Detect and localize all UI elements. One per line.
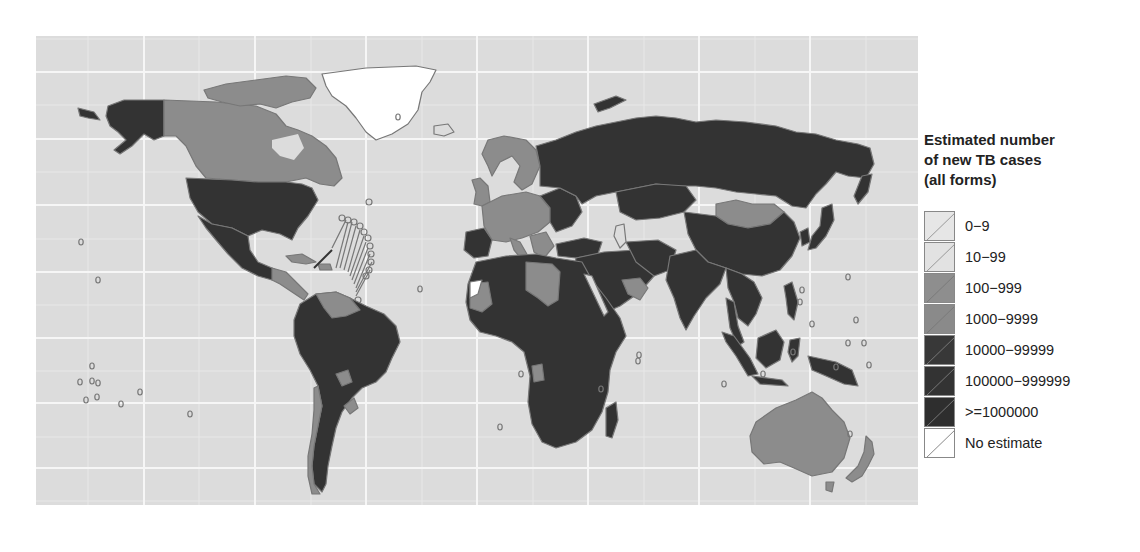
region-usa: [186, 178, 318, 240]
map-panel: [36, 36, 918, 505]
region-aleutians: [78, 108, 100, 120]
region-greenland: [322, 66, 436, 140]
legend-swatch: [924, 211, 955, 241]
region-java: [752, 376, 788, 386]
legend-label: 10000−99999: [965, 342, 1054, 358]
region-madagascar: [606, 402, 618, 438]
legend-swatch: [924, 242, 955, 272]
legend-label: 0−9: [965, 218, 990, 234]
legend-label: >=1000000: [965, 404, 1038, 420]
legend-swatch: [924, 304, 955, 334]
legend-swatch: [924, 273, 955, 303]
region-uk: [472, 178, 490, 206]
region-japan: [808, 204, 834, 250]
region-hispaniola: [318, 264, 332, 270]
region-iceland: [434, 124, 454, 136]
legend-label: 100000−999999: [965, 373, 1070, 389]
legend-label: 100−999: [965, 280, 1022, 296]
legend-label: 10−99: [965, 249, 1006, 265]
caribbean-island-markers: [332, 199, 374, 303]
legend-swatch: [924, 428, 955, 458]
region-russia: [536, 116, 874, 208]
legend-item-no-estimate: No estimate: [924, 427, 1134, 458]
region-canada: [164, 100, 342, 186]
region-novaya-zemlya: [594, 96, 626, 112]
region-png: [808, 356, 858, 386]
legend-swatch: [924, 397, 955, 427]
region-sulawesi: [788, 338, 800, 362]
legend-item-10-99: 10−99: [924, 241, 1134, 272]
legend-swatch: [924, 366, 955, 396]
region-tasmania: [826, 482, 834, 492]
region-new-zealand: [846, 436, 874, 482]
region-korea: [800, 228, 810, 246]
region-gabon: [532, 364, 544, 382]
legend-item-100-999: 100−999: [924, 272, 1134, 303]
legend-item-1000-9999: 1000−9999: [924, 303, 1134, 334]
region-philippines: [784, 282, 798, 320]
legend-title-line-3: (all forms): [924, 170, 1134, 190]
region-scandinavia: [482, 136, 540, 190]
region-borneo: [756, 330, 784, 368]
legend-item-0-9: 0−9: [924, 210, 1134, 241]
region-alaska: [106, 100, 164, 154]
legend-item-10000-99999: 10000−99999: [924, 334, 1134, 365]
legend-item-ge-1000000: >=1000000: [924, 396, 1134, 427]
legend-title-line-1: Estimated number: [924, 130, 1134, 150]
legend-swatch: [924, 335, 955, 365]
legend-label: 1000−9999: [965, 311, 1038, 327]
legend-label: No estimate: [965, 435, 1042, 451]
legend: Estimated number of new TB cases (all fo…: [924, 130, 1134, 458]
legend-title-line-2: of new TB cases: [924, 150, 1134, 170]
legend-item-100000-999999: 100000−999999: [924, 365, 1134, 396]
region-kamchatka: [854, 174, 872, 204]
world-map: [36, 36, 918, 505]
legend-title: Estimated number of new TB cases (all fo…: [924, 130, 1134, 190]
region-caspian: [614, 224, 626, 248]
region-australia: [750, 392, 850, 476]
